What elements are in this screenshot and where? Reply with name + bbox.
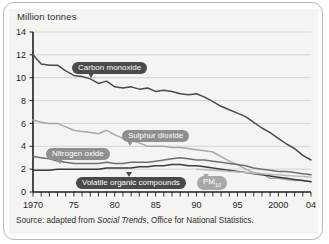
callout-pointer-nitrogen-oxide <box>57 159 63 164</box>
y-axis-tick-label: 14 <box>16 27 26 37</box>
x-axis-tick-label: 80 <box>110 200 120 210</box>
y-axis-tick-label: 6 <box>21 119 26 129</box>
source-suffix: , Office for National Statistics. <box>146 216 253 225</box>
callout-carbon-monoxide: Carbon monoxide <box>72 62 147 74</box>
callout-pm10-subscript: 10 <box>215 181 221 187</box>
chart-figure: Million tonnes 0246810121419707580859095… <box>0 0 329 244</box>
x-axis-tick-label: 90 <box>192 200 202 210</box>
source-publication: Social Trends <box>97 216 146 225</box>
chart-plot-area: 0246810121419707580859095200004 <box>0 0 329 244</box>
callout-pointer-sulphur-dioxide <box>127 141 133 146</box>
source-note: Source: adapted from Social Trends, Offi… <box>16 216 254 225</box>
callout-nitrogen-oxide: Nitrogen oxide <box>46 148 110 160</box>
y-axis-tick-label: 12 <box>16 50 26 60</box>
x-axis-tick-label: 85 <box>151 200 161 210</box>
x-axis-tick-label: 1970 <box>23 200 43 210</box>
x-axis-tick-label: 04 <box>306 200 316 210</box>
x-axis-tick-label: 2000 <box>268 200 288 210</box>
y-axis-tick-label: 8 <box>21 96 26 106</box>
x-axis-tick-label: 95 <box>232 200 242 210</box>
callout-volatile-organic-compounds: Volatile organic compounds <box>76 177 186 189</box>
y-axis-tick-label: 10 <box>16 73 26 83</box>
x-axis-tick-label: 75 <box>69 200 79 210</box>
source-prefix: Source: adapted from <box>16 216 97 225</box>
callout-pm10: PM10 <box>197 176 227 190</box>
y-axis-tick-label: 2 <box>21 164 26 174</box>
y-axis-tick-label: 0 <box>21 187 26 197</box>
callout-pointer-carbon-monoxide <box>88 73 94 78</box>
callout-pointer-volatile-organic-compounds <box>126 172 132 177</box>
callout-pointer-pm10 <box>203 174 209 179</box>
y-axis-tick-label: 4 <box>21 141 26 151</box>
